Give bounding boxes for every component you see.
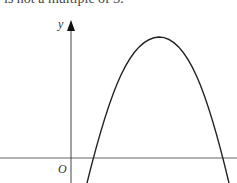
parabola-curve xyxy=(87,37,229,183)
origin-label: O xyxy=(58,162,67,176)
y-axis-arrow-icon xyxy=(67,20,75,31)
graph-diagram: y O xyxy=(0,0,237,183)
y-axis-label: y xyxy=(57,17,64,31)
